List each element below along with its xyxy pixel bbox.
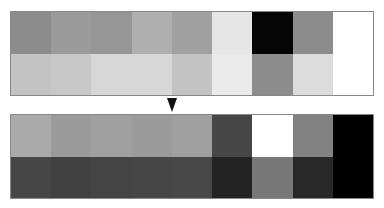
gray-patch bbox=[252, 54, 292, 96]
top-patch-grid bbox=[10, 11, 374, 96]
gray-patch bbox=[212, 54, 252, 96]
gray-patch bbox=[293, 115, 333, 157]
gray-patch bbox=[132, 12, 172, 54]
gray-patch bbox=[51, 54, 91, 96]
gray-patch bbox=[91, 157, 131, 199]
gray-patch bbox=[293, 54, 333, 96]
gray-patch bbox=[172, 12, 212, 54]
gray-patch bbox=[252, 157, 292, 199]
gray-patch bbox=[11, 157, 51, 199]
gray-patch bbox=[333, 12, 373, 54]
gray-patch bbox=[132, 115, 172, 157]
gray-patch bbox=[293, 157, 333, 199]
gray-patch bbox=[91, 54, 131, 96]
gray-patch bbox=[11, 12, 51, 54]
gray-patch bbox=[212, 12, 252, 54]
gray-patch bbox=[51, 115, 91, 157]
gray-patch bbox=[132, 54, 172, 96]
gray-patch bbox=[172, 157, 212, 199]
gray-patch bbox=[172, 54, 212, 96]
gray-patch bbox=[172, 115, 212, 157]
down-arrow-icon bbox=[167, 98, 177, 112]
gray-patch bbox=[11, 115, 51, 157]
gray-patch bbox=[212, 115, 252, 157]
gray-patch bbox=[51, 12, 91, 54]
gray-patch bbox=[11, 54, 51, 96]
gray-patch bbox=[333, 115, 373, 157]
gray-patch bbox=[333, 54, 373, 96]
bottom-patch-grid bbox=[10, 114, 374, 199]
gray-patch bbox=[91, 115, 131, 157]
gray-patch bbox=[91, 12, 131, 54]
gray-patch bbox=[252, 12, 292, 54]
gray-patch bbox=[333, 157, 373, 199]
gray-patch bbox=[132, 157, 172, 199]
gray-patch bbox=[212, 157, 252, 199]
gray-patch bbox=[252, 115, 292, 157]
gray-patch bbox=[51, 157, 91, 199]
gray-patch bbox=[293, 12, 333, 54]
